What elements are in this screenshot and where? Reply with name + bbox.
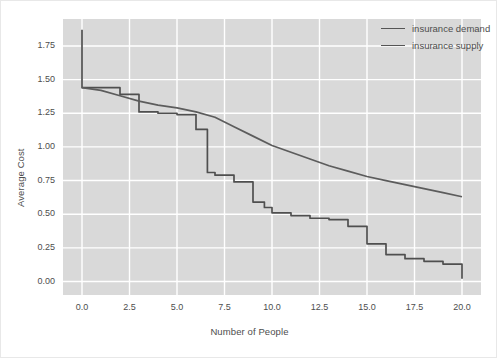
legend-item-insurance-demand[interactable]: insurance demand [381,23,490,34]
x-tick-label: 17.5 [395,302,435,312]
y-tick-label: 1.75 [1,40,55,50]
legend-label-supply: insurance supply [412,40,483,51]
x-tick-label: 20.0 [442,302,482,312]
y-tick-label: 1.50 [1,74,55,84]
y-tick-label: 0.00 [1,276,55,286]
x-tick-label: 7.5 [205,302,245,312]
y-tick-label: 1.25 [1,107,55,117]
legend-label-demand: insurance demand [412,23,490,34]
x-tick-label: 0.0 [62,302,102,312]
x-axis-label: Number of People [1,326,497,337]
x-tick-label: 2.5 [110,302,150,312]
chart-figure: Average Cost Number of People 0.02.55.07… [0,0,497,358]
x-tick-label: 12.5 [300,302,340,312]
y-tick-label: 0.75 [1,175,55,185]
y-tick-label: 0.25 [1,242,55,252]
legend-line-swatch-demand [381,28,405,29]
x-tick-label: 10.0 [252,302,292,312]
y-tick-label: 1.00 [1,141,55,151]
legend-item-insurance-supply[interactable]: insurance supply [381,40,483,51]
legend-line-swatch-supply [381,45,405,46]
y-tick-label: 0.50 [1,208,55,218]
x-tick-label: 15.0 [347,302,387,312]
x-tick-label: 5.0 [157,302,197,312]
